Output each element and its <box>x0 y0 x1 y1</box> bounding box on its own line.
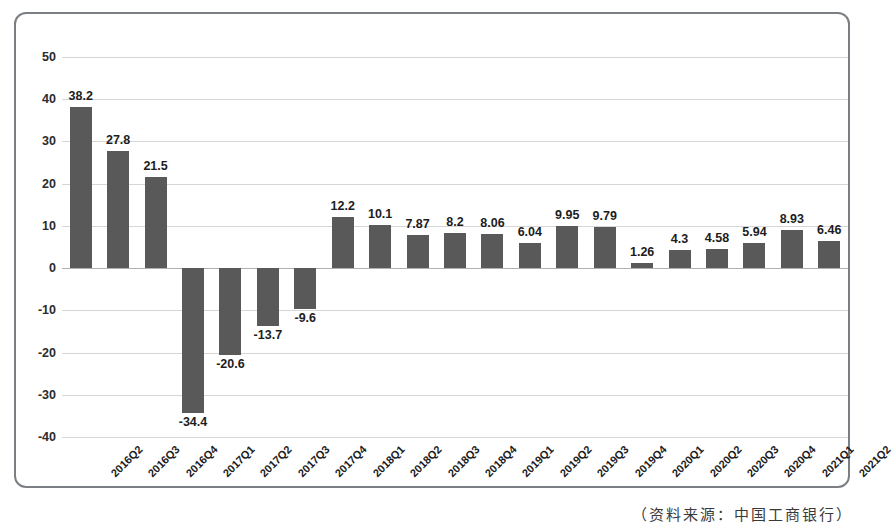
bar-value-label: 9.79 <box>579 209 631 223</box>
y-axis-tick: -20 <box>16 346 56 360</box>
bar <box>556 226 578 268</box>
x-axis-tick: 2016Q4 <box>183 443 219 479</box>
y-axis-tick: -40 <box>16 430 56 444</box>
bar-value-label: 27.8 <box>92 133 144 147</box>
bar <box>107 151 129 268</box>
x-axis-tick: 2020Q1 <box>670 443 706 479</box>
y-axis-tick: 50 <box>16 50 56 64</box>
bar <box>145 177 167 268</box>
bar <box>294 268 316 309</box>
y-axis-tick: 30 <box>16 134 56 148</box>
y-axis-tick: 40 <box>16 92 56 106</box>
bar-value-label: -20.6 <box>204 357 256 371</box>
bar <box>369 225 391 268</box>
bar <box>519 243 541 269</box>
y-axis-tick: 0 <box>16 261 56 275</box>
bar-value-label: 38.2 <box>55 89 107 103</box>
bar-value-label: -13.7 <box>242 328 294 342</box>
x-axis-tick: 2019Q4 <box>632 443 668 479</box>
bar-value-label: 21.5 <box>130 159 182 173</box>
y-axis-tick-labels: 50403020100-10-20-30-40 <box>14 57 56 437</box>
x-axis-tick: 2019Q1 <box>520 443 556 479</box>
bar <box>743 243 765 268</box>
x-axis-tick: 2021Q1 <box>819 443 855 479</box>
y-axis-tick: 10 <box>16 219 56 233</box>
x-axis-tick: 2020Q4 <box>782 443 818 479</box>
y-axis-tick: -10 <box>16 303 56 317</box>
bar-value-label: 6.46 <box>803 223 855 237</box>
bar <box>219 268 241 355</box>
x-axis-tick: 2019Q2 <box>557 443 593 479</box>
bar-value-label: 5.94 <box>728 225 780 239</box>
source-caption: （资料来源：中国工商银行） <box>0 503 873 523</box>
bar <box>481 234 503 268</box>
plot-area: 38.227.821.5-34.4-20.6-13.7-9.612.210.17… <box>62 57 848 437</box>
gridline <box>62 437 848 438</box>
bar-value-label: 6.04 <box>504 225 556 239</box>
bar <box>332 217 354 269</box>
y-axis-tick: -30 <box>16 388 56 402</box>
x-axis-tick: 2018Q2 <box>408 443 444 479</box>
x-axis-tick-labels: 2016Q22016Q32016Q42017Q12017Q22017Q32017… <box>62 441 848 489</box>
x-axis-tick: 2018Q1 <box>370 443 406 479</box>
bar <box>706 249 728 268</box>
bar <box>631 263 653 268</box>
bar-value-label: -9.6 <box>279 311 331 325</box>
x-axis-tick: 2021Q2 <box>857 443 893 479</box>
x-axis-tick: 2018Q4 <box>482 443 518 479</box>
x-axis-tick: 2019Q3 <box>595 443 631 479</box>
bar <box>182 268 204 413</box>
y-axis-tick: 20 <box>16 177 56 191</box>
x-axis-tick: 2018Q3 <box>445 443 481 479</box>
x-axis-tick: 2020Q3 <box>744 443 780 479</box>
bar-series: 38.227.821.5-34.4-20.6-13.7-9.612.210.17… <box>62 57 848 437</box>
bar <box>669 250 691 268</box>
bar <box>781 230 803 268</box>
x-axis-tick: 2017Q4 <box>333 443 369 479</box>
x-axis-tick: 2016Q3 <box>146 443 182 479</box>
x-axis-tick: 2017Q2 <box>258 443 294 479</box>
x-axis-tick: 2016Q2 <box>108 443 144 479</box>
bar <box>257 268 279 326</box>
x-axis-tick: 2017Q1 <box>220 443 256 479</box>
bar <box>407 235 429 268</box>
bar <box>818 241 840 268</box>
bar-value-label: 1.26 <box>616 245 668 259</box>
x-axis-tick: 2020Q2 <box>707 443 743 479</box>
bar <box>594 227 616 268</box>
bar-value-label: -34.4 <box>167 415 219 429</box>
x-axis-tick: 2017Q3 <box>295 443 331 479</box>
bar <box>70 107 92 268</box>
bar <box>444 233 466 268</box>
